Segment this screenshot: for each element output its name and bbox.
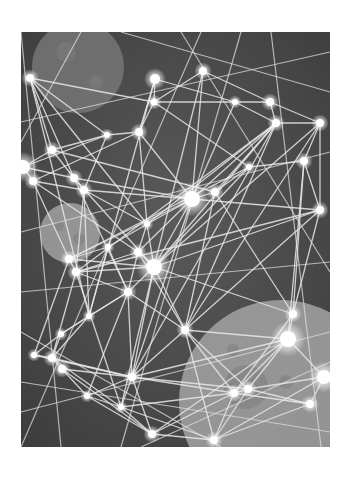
network-node	[114, 400, 127, 413]
network-artwork	[21, 32, 330, 447]
page	[0, 0, 351, 479]
network-node	[194, 62, 212, 80]
network-node	[54, 327, 67, 340]
network-node	[206, 183, 224, 201]
network-node	[67, 263, 85, 281]
network-node	[144, 68, 166, 90]
crater	[89, 75, 103, 89]
network-node	[136, 249, 171, 284]
network-node	[130, 123, 148, 141]
network-node	[75, 181, 93, 199]
network-node	[270, 321, 305, 356]
network-node	[140, 217, 153, 230]
network-scene	[21, 32, 330, 447]
network-node	[228, 95, 241, 108]
network-node	[176, 321, 194, 339]
network-node	[174, 181, 209, 216]
network-node	[261, 93, 279, 111]
crater	[227, 344, 239, 356]
network-node	[82, 309, 95, 322]
network-node	[24, 172, 42, 190]
network-node	[119, 283, 137, 301]
network-node	[21, 69, 39, 87]
network-node	[295, 152, 313, 170]
network-node	[311, 201, 329, 219]
network-node	[267, 114, 285, 132]
network-node	[143, 425, 161, 443]
network-node	[301, 395, 319, 413]
network-node	[80, 389, 93, 402]
network-node	[101, 240, 114, 253]
network-node	[53, 360, 71, 378]
network-node	[123, 368, 141, 386]
network-node	[43, 141, 61, 159]
network-node	[284, 305, 302, 323]
network-node	[242, 160, 255, 173]
network-node	[146, 94, 161, 109]
network-node	[27, 348, 40, 361]
network-node	[311, 114, 329, 132]
network-node	[100, 128, 113, 141]
network-node	[239, 380, 257, 398]
